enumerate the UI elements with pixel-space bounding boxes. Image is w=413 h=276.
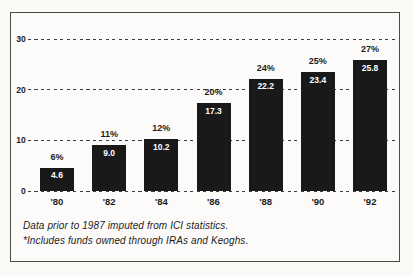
chart-frame: 01020306%4.6'8011%9.0'8212%10.2'8420%17.… [10,12,400,262]
bar [197,103,231,191]
footnote-line-1: Data prior to 1987 imputed from ICI stat… [23,219,248,234]
bar-value-label: 25.8 [353,63,387,73]
bar-percent-label: 6% [31,152,83,162]
x-tick-label: '82 [83,196,135,207]
x-tick-label: '92 [344,196,396,207]
footnote: Data prior to 1987 imputed from ICI stat… [23,219,248,248]
bar-value-label: 17.3 [197,106,231,116]
footnote-line-2: *Includes funds owned through IRAs and K… [23,234,248,249]
bar-percent-label: 25% [292,56,344,66]
bar-value-label: 9.0 [92,148,126,158]
x-tick-label: '86 [188,196,240,207]
scanned-bar-chart-figure: 01020306%4.6'8011%9.0'8212%10.2'8420%17.… [0,0,413,276]
bar-value-label: 22.2 [249,81,283,91]
y-tick-label: 10 [11,135,26,145]
y-tick-label: 20 [11,85,26,95]
x-tick-label: '80 [31,196,83,207]
y-tick-label: 0 [11,186,26,196]
bar-value-label: 4.6 [40,170,74,180]
bar-value-label: 23.4 [301,75,335,85]
bar [301,72,335,191]
bar-percent-label: 12% [135,123,187,133]
bar-percent-label: 24% [240,63,292,73]
bar [353,60,387,191]
y-tick-label: 30 [11,34,26,44]
bar-percent-label: 11% [83,129,135,139]
bar-group-92: 27%25.8'92 [344,13,396,261]
bar-percent-label: 27% [344,44,396,54]
bar-value-label: 10.2 [144,142,178,152]
x-tick-label: '84 [135,196,187,207]
bar-percent-label: 20% [188,87,240,97]
x-tick-label: '90 [292,196,344,207]
bar-group-90: 25%23.4'90 [292,13,344,261]
x-tick-label: '88 [240,196,292,207]
bar [249,79,283,191]
